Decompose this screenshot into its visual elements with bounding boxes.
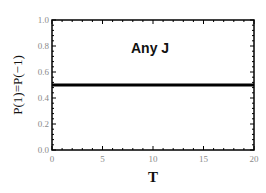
tick-label: 0.8 [38, 41, 50, 51]
tick-label: 0 [50, 154, 55, 164]
tick-label: 1.0 [38, 15, 50, 25]
y-axis-label: P(1)=P(−1) [10, 55, 25, 114]
tick-label: 0.6 [38, 67, 50, 77]
tick-label: 20 [250, 154, 260, 164]
annotation-any-j: Any J [131, 40, 169, 56]
tick-label: 0.4 [38, 93, 50, 103]
tick-label: 15 [199, 154, 209, 164]
tick-label: 5 [100, 154, 105, 164]
tick-label: 10 [149, 154, 159, 164]
x-axis-label: T [148, 169, 158, 185]
tick-label: 0.2 [38, 119, 49, 129]
tick-label: 0.0 [38, 145, 50, 155]
chart: 051015200.00.20.40.60.81.0 Any J T P(1)=… [0, 0, 266, 193]
